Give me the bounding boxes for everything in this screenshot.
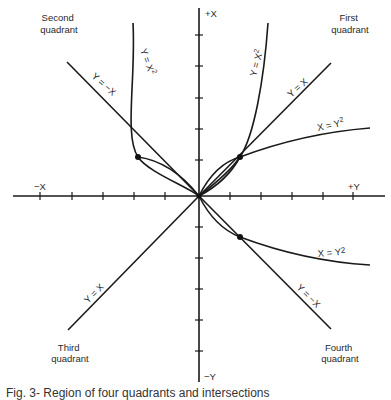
svg-text:Y = X2: Y = X2 [138,47,159,77]
label-x-eq-y2-upper: X = Y2 [316,116,345,133]
figure-caption: Fig. 3- Region of four quadrants and int… [6,386,269,400]
axis-label-positive-x: +X [205,8,218,19]
svg-text:X = Y2: X = Y2 [317,246,346,259]
quadrant-label-second: Second quadrant [40,12,78,35]
intersection-dot-fourth-quadrant [237,234,243,240]
curve-y-eq-x2-first-quadrant [199,23,268,196]
line-y-eq-x-first-quadrant [199,63,331,196]
intersection-dot-second-quadrant [135,154,141,160]
axis-label-positive-y: +Y [348,181,361,192]
curve-x-eq-y2-first-quadrant [199,128,370,196]
svg-text:Y = −X: Y = −X [90,70,119,98]
line-y-eq-x-third-quadrant [68,196,199,330]
svg-text:X = Y2: X = Y2 [316,116,345,133]
quadrant-label-third: Third quadrant [51,342,89,364]
line-y-eq-neg-x-fourth-quadrant [199,196,331,329]
label-x-eq-y2-lower: X = Y2 [317,246,346,259]
label-y-eq-x-lower: Y = X [82,281,107,306]
intersection-dot-first-quadrant [237,154,243,160]
label-y-eq-neg-x-upper: Y = −X [90,70,119,98]
svg-text:Y = X: Y = X [82,281,107,306]
label-y-eq-x2-left: Y = X2 [138,47,159,77]
axis-label-negative-y: −Y [204,371,217,382]
quadrant-label-first: First quadrant [331,12,369,35]
quadrant-label-fourth: Fourth quadrant [321,342,359,364]
origin-dot [197,194,202,199]
axis-label-negative-x: −X [34,181,47,192]
